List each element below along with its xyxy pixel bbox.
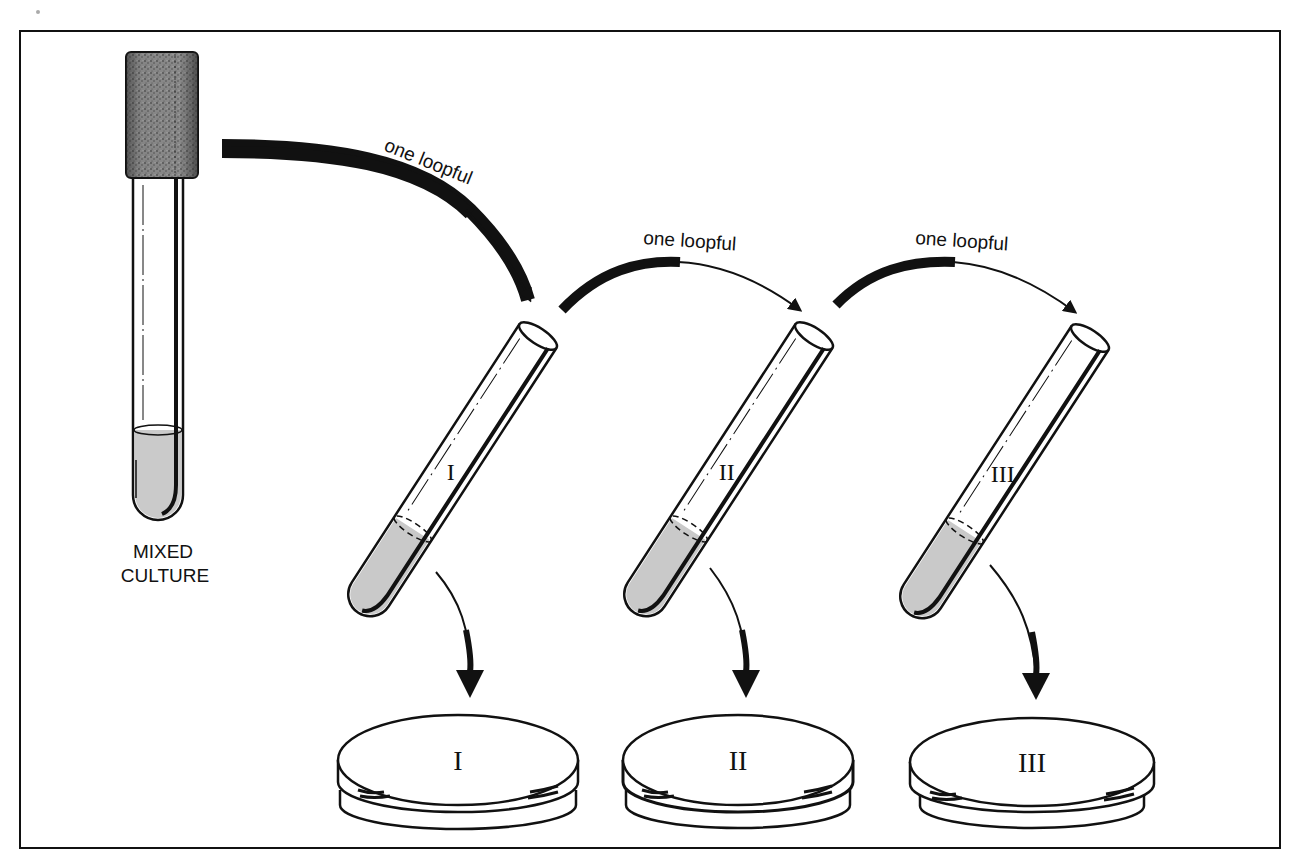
tube-2-liquid <box>619 518 706 622</box>
tube-2: II <box>616 317 837 624</box>
plate-3-numeral: III <box>1018 747 1046 778</box>
tube-1-numeral: I <box>447 459 455 485</box>
plating-arrow-3 <box>990 565 1050 700</box>
tube-3-numeral: III <box>991 461 1015 487</box>
source-label-line2: CULTURE <box>121 565 209 586</box>
transfer-arrow-1 <box>222 146 530 300</box>
tube-1-liquid <box>343 518 430 622</box>
source-tube <box>126 52 198 520</box>
diagram-canvas: MIXED CULTURE one loopful one loopful on… <box>0 0 1296 854</box>
source-label-line1: MIXED <box>133 541 193 562</box>
plate-1-numeral: I <box>453 745 462 776</box>
plate-2: II <box>623 715 853 828</box>
tube-3-liquid <box>895 520 982 624</box>
plating-arrow-1 <box>436 572 484 698</box>
plate-3: III <box>910 718 1154 828</box>
transfer-label-3: one loopful <box>915 227 1009 254</box>
transfer-arrow-3 <box>836 262 1075 312</box>
tube-2-numeral: II <box>719 459 735 485</box>
plating-arrow-2 <box>710 568 760 698</box>
transfer-label-2: one loopful <box>643 227 737 254</box>
plate-2-numeral: II <box>729 745 748 776</box>
speck <box>36 10 40 14</box>
transfer-arrow-2 <box>562 262 800 310</box>
plate-1: I <box>338 715 578 829</box>
tube-1: I <box>340 317 561 624</box>
